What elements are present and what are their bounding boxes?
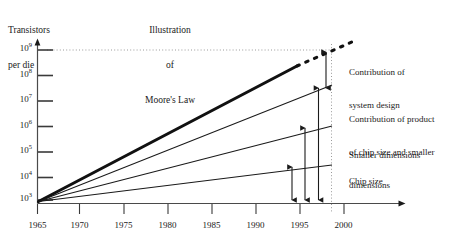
series-chip-size <box>39 165 333 202</box>
x-tick-label-1975: 1975 <box>102 220 145 231</box>
y-tick-label-1e4: 104 <box>1 171 32 182</box>
x-tick-label-1980: 1980 <box>146 220 189 231</box>
y-tick-label-1e6: 106 <box>1 120 32 131</box>
y-tick-label-1e8: 108 <box>1 69 32 80</box>
y-tick-label-1e5: 105 <box>1 145 32 156</box>
x-tick-label-1985: 1985 <box>190 220 233 231</box>
series-moores-law-dotted-extension <box>297 42 352 66</box>
y-tick-label-1e9: 109 <box>1 43 32 54</box>
annotation-chip-size: Chip size <box>349 176 457 187</box>
chart-title: Illustration of Moore's Law <box>118 2 222 129</box>
annotation-system-design-line1: Contribution of <box>349 67 457 78</box>
series-smaller-dimensions <box>39 126 333 202</box>
x-tick-label-2000: 2000 <box>322 220 365 231</box>
y-tick-label-1e7: 107 <box>1 94 32 105</box>
annotation-product-line1: Contribution of product <box>349 114 458 125</box>
chart-title-line2: of <box>118 60 222 72</box>
chart-title-line3: Moore's Law <box>118 95 222 107</box>
chart-title-line1: Illustration <box>118 25 222 37</box>
annotation-smaller-dimensions: Smaller dimensions <box>349 150 457 161</box>
x-tick-label-1965: 1965 <box>16 220 59 231</box>
x-tick-label-1990: 1990 <box>234 220 277 231</box>
y-tick-label-1e3: 103 <box>1 193 32 204</box>
y-axis-title-line1: Transistors <box>8 25 50 37</box>
x-tick-label-1995: 1995 <box>278 220 321 231</box>
x-tick-label-1970: 1970 <box>58 220 101 231</box>
moores-law-figure: Transistors per die Illustration of Moor… <box>0 0 458 250</box>
x-tick-marks <box>38 204 345 214</box>
